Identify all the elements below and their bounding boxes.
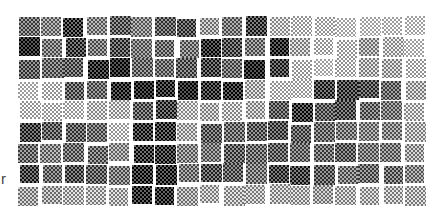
mosaic-tile xyxy=(223,163,243,182)
mosaic-tile xyxy=(222,38,242,57)
mosaic-tile xyxy=(359,122,379,141)
mosaic-tile xyxy=(290,166,310,185)
mosaic-tile xyxy=(179,164,199,183)
mosaic-tile xyxy=(224,122,245,141)
mosaic-tile xyxy=(360,17,381,36)
mosaic-tile xyxy=(19,17,40,36)
mosaic-tile xyxy=(338,166,357,184)
mosaic-tile xyxy=(384,186,403,204)
mosaic-tile xyxy=(246,144,267,164)
mosaic-tile xyxy=(42,186,62,204)
figure-label: r xyxy=(1,170,6,187)
mosaic-tile xyxy=(177,101,198,121)
mosaic-tile xyxy=(133,102,153,121)
mosaic-tile xyxy=(109,188,129,206)
mosaic-tile xyxy=(42,39,62,57)
mosaic-tile xyxy=(131,17,152,36)
mosaic-tile xyxy=(222,17,242,36)
mosaic-tile xyxy=(270,184,291,204)
mosaic-tile xyxy=(224,186,245,206)
mosaic-tile xyxy=(291,125,311,143)
mosaic-tile xyxy=(201,39,221,58)
mosaic-tile xyxy=(246,164,267,184)
mosaic-tile xyxy=(360,187,380,205)
mosaic-tile xyxy=(335,186,356,206)
mosaic-tile xyxy=(270,38,289,56)
mosaic-tile xyxy=(63,58,83,77)
mosaic-tile xyxy=(63,143,83,162)
mosaic-tile xyxy=(200,18,219,36)
mosaic-tile xyxy=(20,101,40,120)
mosaic-tile xyxy=(404,39,424,57)
mosaic-tile xyxy=(405,122,426,141)
mosaic-tile xyxy=(88,60,109,79)
mosaic-tile xyxy=(177,144,198,163)
mosaic-tile xyxy=(177,19,196,37)
mosaic-tile xyxy=(291,16,312,35)
mosaic-tile xyxy=(111,82,131,101)
mosaic-tile xyxy=(109,100,130,119)
mosaic-tile xyxy=(335,58,356,77)
mosaic-tile xyxy=(335,143,356,162)
mosaic-tile xyxy=(41,17,61,36)
mosaic-tile xyxy=(269,165,289,184)
mosaic-tile xyxy=(336,122,356,141)
mosaic-tile xyxy=(244,60,264,79)
mosaic-tile xyxy=(246,101,266,119)
mosaic-tile xyxy=(337,40,357,58)
mosaic-tile xyxy=(63,186,83,205)
mosaic-tile xyxy=(358,164,378,183)
mosaic-tile xyxy=(87,17,107,35)
mosaic-tile xyxy=(200,185,220,203)
mosaic-tile xyxy=(87,81,107,99)
mosaic-tile xyxy=(63,101,83,120)
mosaic-tile xyxy=(20,123,41,142)
mosaic-tile xyxy=(156,100,176,119)
mosaic-tile xyxy=(382,59,402,78)
mosaic-tile xyxy=(359,38,379,56)
mosaic-tile xyxy=(65,165,85,183)
mosaic-tile xyxy=(87,101,107,120)
mosaic-tile xyxy=(155,59,175,77)
mosaic-tile xyxy=(405,186,426,206)
mosaic-tile xyxy=(178,81,198,100)
mosaic-tile xyxy=(381,81,402,100)
mosaic-tile xyxy=(86,186,107,205)
mosaic-tile xyxy=(247,122,268,141)
mosaic-tile xyxy=(155,145,176,165)
mosaic-tile xyxy=(156,165,177,184)
mosaic-tile xyxy=(155,40,174,58)
mosaic-tile xyxy=(42,103,62,121)
mosaic-tile xyxy=(42,58,63,78)
mosaic-tile xyxy=(176,58,197,78)
mosaic-tile xyxy=(134,81,154,99)
mosaic-tile xyxy=(18,187,38,205)
mosaic-tile xyxy=(88,146,107,164)
mosaic-tile xyxy=(109,166,130,185)
mosaic-tile xyxy=(19,60,40,79)
mosaic-tile xyxy=(268,143,289,162)
mosaic-tile xyxy=(131,39,152,58)
mosaic-tile xyxy=(314,165,335,184)
mosaic-tile xyxy=(201,58,221,77)
mosaic-tile xyxy=(290,38,310,56)
mosaic-tile xyxy=(315,103,335,122)
mosaic-tile xyxy=(177,123,196,141)
mosaic-tile xyxy=(314,59,333,77)
mosaic-tile xyxy=(405,16,426,35)
mosaic-tile xyxy=(382,122,402,140)
mosaic-tile xyxy=(222,102,243,121)
mosaic-tile xyxy=(66,38,86,57)
mosaic-tile xyxy=(359,58,379,76)
mosaic-tile xyxy=(63,18,83,36)
mosaic-tile xyxy=(313,185,333,204)
mosaic-tile xyxy=(201,81,221,100)
mosaic-tile xyxy=(246,16,267,35)
mosaic-tile xyxy=(270,59,289,77)
mosaic-tile xyxy=(314,38,333,56)
mosaic-tile xyxy=(404,103,424,121)
mosaic-tile xyxy=(291,186,311,204)
mosaic-tile xyxy=(177,187,198,206)
mosaic-tile xyxy=(42,82,62,100)
mosaic-tile xyxy=(110,38,131,57)
